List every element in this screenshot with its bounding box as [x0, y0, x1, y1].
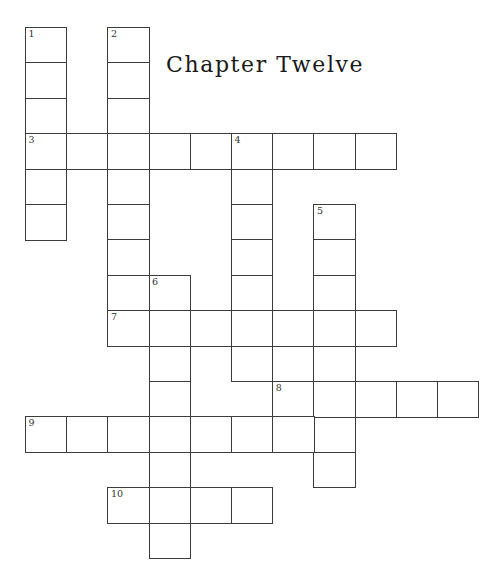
crossword-cell[interactable]: 7 [107, 310, 149, 347]
cell-number-3: 3 [29, 134, 35, 145]
crossword-cell[interactable]: 6 [149, 275, 191, 312]
crossword-cell[interactable] [231, 346, 273, 383]
crossword-cell[interactable] [25, 204, 67, 241]
crossword-cell[interactable] [149, 523, 191, 560]
crossword-grid[interactable]: 13245678910 [0, 0, 491, 582]
crossword-cell[interactable] [355, 133, 397, 170]
crossword-cell[interactable] [231, 169, 273, 206]
crossword-cell[interactable] [231, 204, 273, 241]
crossword-cell[interactable] [231, 239, 273, 276]
crossword-cell[interactable]: 3 [25, 133, 67, 170]
crossword-cell[interactable] [25, 169, 67, 206]
crossword-cell[interactable]: 2 [107, 27, 149, 64]
crossword-cell[interactable] [313, 346, 355, 383]
crossword-cell[interactable] [355, 381, 397, 418]
crossword-cell[interactable] [107, 239, 149, 276]
crossword-cell[interactable] [107, 169, 149, 206]
cell-number-10: 10 [111, 488, 123, 499]
crossword-cell[interactable] [313, 381, 355, 418]
crossword-cell[interactable] [231, 416, 273, 453]
crossword-cell[interactable] [313, 452, 355, 489]
crossword-cell[interactable] [25, 98, 67, 135]
crossword-cell[interactable] [149, 381, 191, 418]
crossword-cell[interactable] [107, 62, 149, 99]
cell-number-6: 6 [152, 276, 158, 287]
crossword-cell[interactable] [313, 310, 355, 347]
crossword-cell[interactable] [190, 133, 232, 170]
cell-number-2: 2 [111, 28, 117, 39]
crossword-cell[interactable] [313, 416, 355, 453]
crossword-cell[interactable]: 5 [313, 204, 355, 241]
cell-number-8: 8 [276, 382, 282, 393]
crossword-cell[interactable] [66, 416, 108, 453]
crossword-cell[interactable] [66, 133, 108, 170]
cell-number-9: 9 [29, 417, 35, 428]
crossword-cell[interactable] [313, 133, 355, 170]
crossword-cell[interactable] [107, 133, 149, 170]
cell-number-4: 4 [235, 134, 241, 145]
crossword-cell[interactable] [231, 487, 273, 524]
cell-number-7: 7 [111, 311, 117, 322]
crossword-cell[interactable] [437, 381, 479, 418]
crossword-cell[interactable]: 8 [272, 381, 314, 418]
crossword-cell[interactable] [107, 416, 149, 453]
crossword-cell[interactable] [231, 310, 273, 347]
crossword-cell[interactable] [313, 239, 355, 276]
crossword-cell[interactable] [396, 381, 438, 418]
crossword-cell[interactable]: 10 [107, 487, 149, 524]
crossword-cell[interactable] [190, 487, 232, 524]
crossword-cell[interactable] [313, 275, 355, 312]
cell-number-5: 5 [317, 205, 323, 216]
crossword-cell[interactable]: 1 [25, 27, 67, 64]
crossword-cell[interactable] [107, 204, 149, 241]
crossword-cell[interactable] [149, 133, 191, 170]
crossword-cell[interactable] [149, 416, 191, 453]
crossword-puzzle: Chapter Twelve 13245678910 [0, 0, 491, 582]
crossword-cell[interactable] [190, 310, 232, 347]
crossword-cell[interactable] [107, 98, 149, 135]
crossword-cell[interactable]: 4 [231, 133, 273, 170]
crossword-cell[interactable] [231, 275, 273, 312]
crossword-cell[interactable] [149, 487, 191, 524]
cell-number-1: 1 [29, 28, 35, 39]
crossword-cell[interactable] [107, 275, 149, 312]
crossword-cell[interactable] [272, 310, 314, 347]
crossword-cell[interactable] [190, 416, 232, 453]
crossword-cell[interactable]: 9 [25, 416, 67, 453]
crossword-cell[interactable] [149, 346, 191, 383]
crossword-cell[interactable] [272, 133, 314, 170]
crossword-cell[interactable] [149, 452, 191, 489]
crossword-cell[interactable] [272, 416, 314, 453]
crossword-cell[interactable] [355, 310, 397, 347]
crossword-cell[interactable] [149, 310, 191, 347]
crossword-cell[interactable] [25, 62, 67, 99]
